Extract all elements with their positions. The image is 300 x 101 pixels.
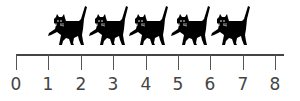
tick-mark (146, 55, 147, 70)
tick-mark (178, 55, 179, 70)
tick-label: 0 (6, 74, 26, 94)
tick-mark (113, 55, 114, 70)
tick-label: 5 (168, 74, 188, 94)
tick-label: 2 (71, 74, 91, 94)
tick-mark (48, 55, 49, 70)
cat-icon (88, 5, 130, 47)
cat-icon (128, 5, 170, 47)
cat-icon (210, 5, 252, 47)
tick-mark (243, 55, 244, 70)
tick-mark (275, 55, 276, 70)
number-line-figure: 012345678 (0, 0, 300, 101)
cat-icon (170, 5, 212, 47)
tick-label: 1 (38, 74, 58, 94)
tick-mark (81, 55, 82, 70)
tick-mark (16, 55, 17, 70)
tick-label: 8 (265, 74, 285, 94)
tick-label: 7 (233, 74, 253, 94)
tick-mark (210, 55, 211, 70)
cat-icon (47, 5, 89, 47)
tick-label: 3 (103, 74, 123, 94)
tick-label: 4 (136, 74, 156, 94)
tick-label: 6 (200, 74, 220, 94)
